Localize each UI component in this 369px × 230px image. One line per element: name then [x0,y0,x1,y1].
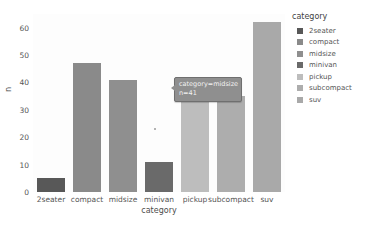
x-axis-tick: minivan [144,195,174,204]
legend-items: 2seatercompactmidsizeminivanpickupsubcom… [292,25,366,106]
y-axis-tick: 0 [24,188,29,197]
legend-swatch-icon [297,51,303,57]
legend-item-2seater[interactable]: 2seater [292,25,366,37]
bar-minivan[interactable] [145,162,174,192]
legend-item-compact[interactable]: compact [292,37,366,49]
legend-item-pickup[interactable]: pickup [292,71,366,83]
legend-swatch-icon [297,97,303,103]
legend-item-label: compact [309,38,339,46]
legend-swatch-icon [297,39,303,45]
hover-indicator-dot [154,128,156,130]
bar-compact[interactable] [73,63,102,192]
legend-swatch-icon [297,85,303,91]
legend-swatch-icon [297,28,303,34]
x-axis-tick: 2seater [37,195,66,204]
legend-item-suv[interactable]: suv [292,94,366,106]
legend-item-label: subcompact [309,84,352,92]
plot-area: category=midsize n=41 01020304050602seat… [33,14,285,192]
y-axis-tick: 30 [19,105,29,114]
legend-swatch-icon [297,74,303,80]
legend-swatch-icon [297,62,303,68]
chart-figure: n category=midsize n=41 01020304050602se… [0,0,369,230]
y-axis-tick: 20 [19,133,29,142]
legend-item-label: pickup [309,73,332,81]
x-axis-tick: subcompact [208,195,254,204]
legend-item-label: midsize [309,50,336,58]
legend-item-label: minivan [309,61,337,69]
tooltip-line-category: category=midsize [179,80,238,89]
y-axis-tick: 50 [19,51,29,60]
legend-item-label: suv [309,96,321,104]
tooltip-line-count: n=41 [179,89,238,98]
y-axis-label-text: n [4,86,13,91]
x-axis-tick: suv [260,195,273,204]
tooltip: category=midsize n=41 [174,77,242,102]
bar-pickup[interactable] [181,102,210,192]
y-axis-tick: 10 [19,160,29,169]
legend-item-subcompact[interactable]: subcompact [292,83,366,95]
bar-subcompact[interactable] [217,96,246,192]
legend-item-minivan[interactable]: minivan [292,60,366,72]
y-axis-label: n [2,0,16,178]
bar-midsize[interactable] [109,80,138,192]
bar-2seater[interactable] [37,178,66,192]
x-axis-label: category [33,206,285,215]
x-axis-tick: pickup [183,195,208,204]
y-axis-tick: 60 [19,23,29,32]
x-axis-tick: compact [71,195,103,204]
legend-item-label: 2seater [309,27,336,35]
y-axis-tick: 40 [19,78,29,87]
x-axis-tick: midsize [109,195,138,204]
bar-suv[interactable] [253,22,282,192]
legend: category 2seatercompactmidsizeminivanpic… [292,12,366,106]
legend-item-midsize[interactable]: midsize [292,48,366,60]
legend-title: category [292,12,366,21]
tooltip-arrow-icon [171,85,175,91]
